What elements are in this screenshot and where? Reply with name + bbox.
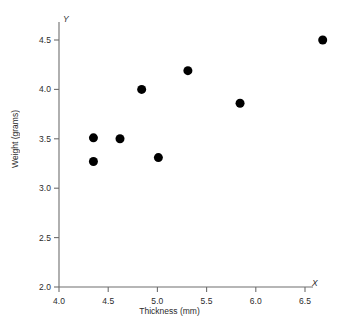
data-point <box>137 85 146 94</box>
x-axis-letter: X <box>312 278 318 288</box>
y-axis-letter: Y <box>63 14 69 24</box>
x-tick-label: 4.0 <box>43 296 75 306</box>
data-point <box>89 133 98 142</box>
data-point <box>89 157 98 166</box>
x-axis-title: Thickness (mm) <box>0 306 339 316</box>
y-tick-label: 4.5 <box>19 35 51 45</box>
x-tick-label: 4.5 <box>92 296 124 306</box>
y-tick-label: 4.0 <box>19 84 51 94</box>
x-tick-label: 6.0 <box>240 296 272 306</box>
y-tick-label: 3.5 <box>19 134 51 144</box>
x-tick-label: 5.0 <box>141 296 173 306</box>
y-tick-label: 2.5 <box>19 233 51 243</box>
data-point <box>183 66 192 75</box>
data-point <box>318 36 327 45</box>
x-tick-label: 6.5 <box>289 296 321 306</box>
y-tick-label: 3.0 <box>19 183 51 193</box>
data-point <box>236 99 245 108</box>
x-tick-label: 5.5 <box>191 296 223 306</box>
plot-canvas <box>0 0 339 330</box>
data-point <box>154 153 163 162</box>
y-tick-label: 2.0 <box>19 282 51 292</box>
data-point <box>116 134 125 143</box>
scatter-plot-figure: Weight (grams) Thickness (mm) Y X 2.02.5… <box>0 0 339 330</box>
